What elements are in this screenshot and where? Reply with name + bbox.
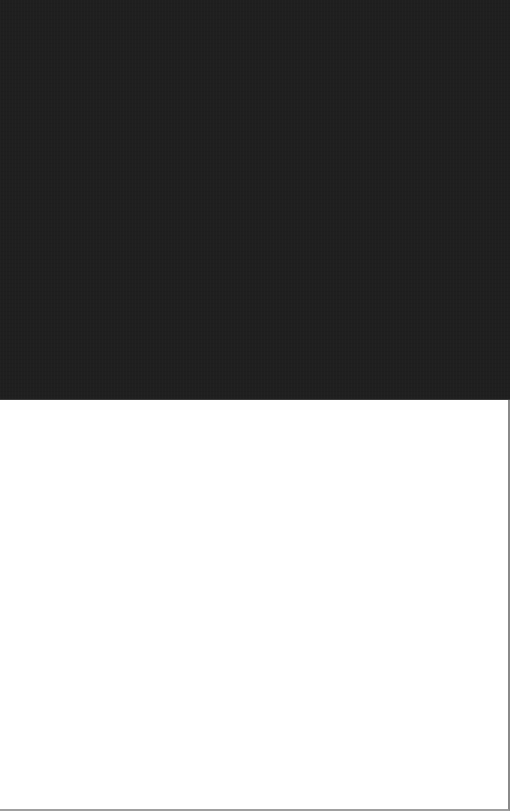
media-label: [0, 0, 1, 1]
content-panel: [0, 400, 510, 811]
content-text: [0, 400, 1, 401]
page: [0, 0, 510, 811]
media-viewport[interactable]: [0, 0, 510, 400]
